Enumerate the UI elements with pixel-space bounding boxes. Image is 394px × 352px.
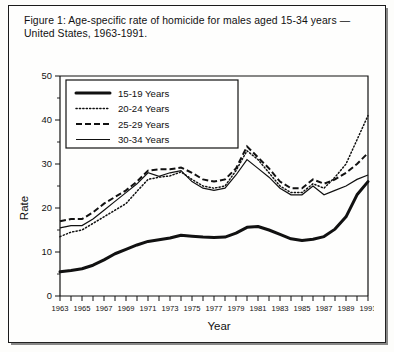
x-tick-label: 1971	[140, 304, 157, 313]
legend-item-label: 15-19 Years	[118, 88, 169, 99]
legend-item-label: 20-24 Years	[118, 103, 169, 114]
caption-line-2: United States, 1963-1991.	[24, 28, 147, 39]
x-tick-label: 1969	[118, 304, 135, 313]
y-axis-title: Rate	[18, 196, 30, 220]
y-tick-label: 0	[47, 290, 52, 301]
x-tick-label: 1987	[316, 304, 333, 313]
x-tick-label: 1983	[272, 304, 289, 313]
y-tick-label: 10	[42, 246, 52, 257]
plot-area: 01020304050 1963196519671969197119731975…	[14, 58, 374, 336]
series-line-15-19-years	[60, 182, 368, 272]
x-tick-label: 1965	[74, 304, 91, 313]
chart-legend: 15-19 Years20-24 Years25-29 Years30-34 Y…	[66, 80, 238, 148]
x-tick-label: 1989	[338, 304, 355, 313]
x-tick-label: 1977	[206, 304, 223, 313]
y-tick-label: 30	[42, 158, 52, 169]
figure-container: Figure 1: Age-specific rate of homicide …	[0, 0, 394, 352]
x-tick-label: 1979	[228, 304, 245, 313]
y-axis: 01020304050	[42, 70, 60, 301]
legend-item-label: 25-29 Years	[118, 119, 169, 130]
x-tick-label: 1975	[184, 304, 201, 313]
x-tick-label: 1967	[96, 304, 113, 313]
x-tick-label: 1985	[294, 304, 311, 313]
series-line-30-34-years	[60, 160, 368, 228]
y-tick-label: 40	[42, 114, 52, 125]
x-tick-label: 1991	[360, 304, 374, 313]
x-tick-label: 1963	[52, 304, 69, 313]
y-tick-label: 20	[42, 202, 52, 213]
y-tick-label: 50	[42, 70, 52, 81]
x-tick-label: 1973	[162, 304, 179, 313]
x-tick-label: 1981	[250, 304, 267, 313]
x-axis-title: Year	[207, 320, 230, 332]
homicide-rate-line-chart: 01020304050 1963196519671969197119731975…	[14, 58, 374, 336]
series-line-25-29-years	[60, 146, 368, 221]
figure-caption: Figure 1: Age-specific rate of homicide …	[24, 14, 366, 40]
legend-item-label: 30-34 Years	[118, 134, 169, 145]
caption-line-1: Figure 1: Age-specific rate of homicide …	[24, 15, 350, 26]
